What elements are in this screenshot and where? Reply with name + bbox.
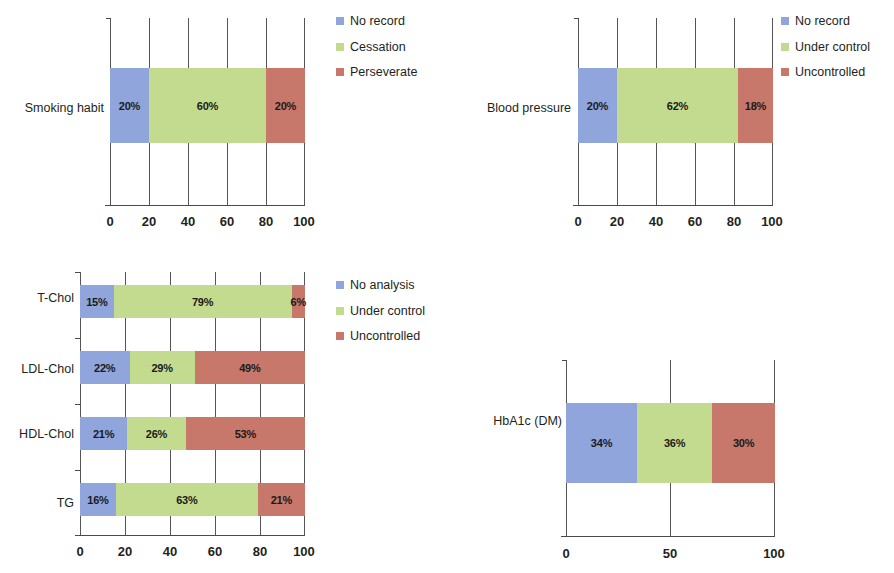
xtick-label-0: 0 (90, 214, 130, 229)
legend-item-no-analysis[interactable]: No analysis (336, 279, 425, 292)
legend-swatch-red-icon (336, 332, 344, 340)
bar-segment-under-control: 29% (130, 351, 195, 384)
bar-blood-pressure: 20% 62% 18% (578, 68, 773, 143)
legend-label-no-record: No record (795, 15, 850, 28)
legend-item-under-control[interactable]: Under control (781, 41, 870, 54)
legend-label-under-control: Under control (350, 305, 425, 318)
legend-swatch-green-icon (336, 43, 344, 51)
xtick-label-20: 20 (129, 214, 169, 229)
axis-top-cap (574, 18, 579, 19)
xtick-label-60: 60 (207, 214, 247, 229)
chart-panel-blood-pressure: Blood pressure 20% 62% 18% 0 20 40 60 80… (447, 0, 894, 270)
legend-label-no-analysis: No analysis (350, 279, 415, 292)
legend-item-no-record[interactable]: No record (336, 15, 417, 28)
legend-swatch-green-icon (336, 307, 344, 315)
bar-hdl-chol: 21% 26% 53% (80, 417, 305, 450)
bar-segment-uncontrolled: 21% (258, 483, 305, 516)
x-axis-line (75, 535, 305, 536)
bar-segment-no-analysis: 34% (566, 403, 637, 483)
xtick-label-0: 0 (546, 546, 586, 561)
legend-item-no-record[interactable]: No record (781, 15, 870, 28)
legend-item-cessation[interactable]: Cessation (336, 41, 417, 54)
bar-segment-no-analysis: 22% (80, 351, 130, 384)
category-label-t-chol: T-Chol (0, 291, 74, 305)
axis-top-cap (562, 360, 567, 361)
plot-area-blood-pressure: 20% 62% 18% (578, 18, 773, 205)
plot-area-hba1c: 34% 36% 30% (566, 360, 775, 536)
xtick-label-0: 0 (558, 214, 598, 229)
category-label-ldl-chol: LDL-Chol (0, 362, 74, 376)
xtick-label-20: 20 (105, 544, 145, 559)
legend-swatch-red-icon (781, 68, 789, 76)
xtick-label-100: 100 (284, 214, 324, 229)
xtick-label-60: 60 (675, 214, 715, 229)
legend-swatch-red-icon (336, 68, 344, 76)
xtick-label-40: 40 (168, 214, 208, 229)
legend-smoking-habit: No record Cessation Perseverate (336, 15, 417, 92)
legend-item-uncontrolled[interactable]: Uncontrolled (336, 330, 425, 343)
axis-tick-0 (75, 272, 80, 273)
bar-segment-under-control: 79% (114, 285, 292, 318)
bar-segment-no-analysis: 21% (80, 417, 127, 450)
bar-t-chol: 15% 79% 6% (80, 285, 305, 318)
bar-segment-hba1c-below-7-5: 36% (637, 403, 712, 483)
axis-top-cap (106, 18, 111, 19)
legend-swatch-blue-icon (336, 17, 344, 25)
bar-segment-under-control: 63% (116, 483, 258, 516)
bar-segment-no-record: 20% (578, 68, 617, 143)
bar-segment-perseverate: 20% (266, 68, 305, 143)
bar-ldl-chol: 22% 29% 49% (80, 351, 305, 384)
plot-area-lipid-profile: 15% 79% 6% 22% 29% 49% 21% 26% 53% 16% 6… (80, 272, 305, 535)
bar-hba1c: 34% 36% 30% (566, 403, 775, 483)
legend-item-uncontrolled[interactable]: Uncontrolled (781, 66, 870, 79)
x-axis-line (561, 536, 775, 537)
bar-segment-under-control: 62% (617, 68, 738, 143)
legend-label-uncontrolled: Uncontrolled (795, 66, 865, 79)
xtick-label-100: 100 (752, 214, 792, 229)
xtick-label-80: 80 (246, 214, 286, 229)
bar-segment-no-record: 20% (110, 68, 149, 143)
xtick-label-20: 20 (597, 214, 637, 229)
xtick-label-40: 40 (150, 544, 190, 559)
legend-item-perseverate[interactable]: Perseverate (336, 66, 417, 79)
bar-segment-cessation: 60% (149, 68, 266, 143)
xtick-label-80: 80 (714, 214, 754, 229)
bar-segment-no-analysis: 15% (80, 285, 114, 318)
xtick-label-80: 80 (240, 544, 280, 559)
bar-segment-no-analysis: 16% (80, 483, 116, 516)
xtick-label-50: 50 (650, 546, 690, 561)
category-label-tg: TG (0, 496, 74, 510)
chart-panel-lipid-profile: T-Chol LDL-Chol HDL-Chol TG 15% 79% 6% 2… (0, 270, 447, 573)
bar-segment-hba1c-above-7-5: 30% (712, 403, 775, 483)
legend-lipid-profile: No analysis Under control Uncontrolled (336, 279, 425, 356)
chart-panel-hba1c: HbA1c (DM) 34% 36% 30% 0 50 100 No analy… (447, 270, 894, 573)
x-axis-line (105, 205, 305, 206)
axis-tick-3 (75, 470, 80, 471)
bar-segment-under-control: 26% (127, 417, 186, 450)
bar-smoking-habit: 20% 60% 20% (110, 68, 305, 143)
axis-tick-1 (75, 338, 80, 339)
bar-tg: 16% 63% 21% (80, 483, 305, 516)
legend-label-no-record: No record (350, 15, 405, 28)
legend-swatch-blue-icon (781, 17, 789, 25)
category-label-blood-pressure: Blood pressure (467, 101, 571, 115)
xtick-label-100: 100 (754, 546, 794, 561)
figure-stacked-bar-charts: { "figure": { "title": "", "colors": { "… (0, 0, 894, 573)
legend-item-under-control[interactable]: Under control (336, 305, 425, 318)
category-label-smoking-habit: Smoking habit (0, 101, 104, 115)
x-axis-line (573, 205, 773, 206)
legend-blood-pressure: No record Under control Uncontrolled (781, 15, 870, 92)
bar-segment-uncontrolled: 53% (186, 417, 305, 450)
axis-tick-2 (75, 404, 80, 405)
legend-label-cessation: Cessation (350, 41, 406, 54)
bar-segment-uncontrolled: 6% (292, 285, 306, 318)
legend-label-under-control: Under control (795, 41, 870, 54)
bar-segment-uncontrolled: 49% (195, 351, 305, 384)
legend-swatch-green-icon (781, 43, 789, 51)
legend-label-perseverate: Perseverate (350, 66, 417, 79)
bar-segment-uncontrolled: 18% (738, 68, 773, 143)
legend-swatch-blue-icon (336, 281, 344, 289)
chart-panel-smoking-habit: Smoking habit 20% 60% 20% 0 20 40 60 80 … (0, 0, 447, 270)
legend-label-uncontrolled: Uncontrolled (350, 330, 420, 343)
category-label-hba1c: HbA1c (DM) (467, 414, 562, 428)
